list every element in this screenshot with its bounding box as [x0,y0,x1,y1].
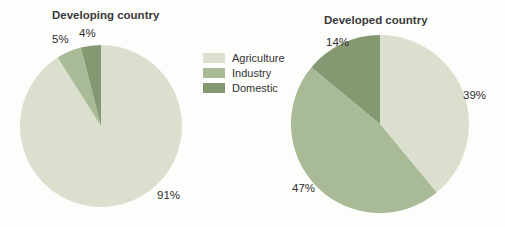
legend-item-domestic: Domestic [203,80,285,95]
pie-chart-developed-country [291,35,469,213]
slice-label-developing-industry: 5% [52,33,69,45]
legend-swatch-agriculture-icon [203,53,225,63]
chart-title-developing-country: Developing country [52,9,159,21]
legend-item-industry: Industry [203,65,285,80]
slice-label-developing-agriculture: 91% [157,189,180,201]
pie-charts-figure: Developing country Developed country 91%… [0,0,505,227]
slice-label-developed-industry: 47% [292,182,315,194]
chart-title-developed-country: Developed country [324,14,428,26]
legend-label-industry: Industry [232,67,271,79]
pie-slice-agriculture [20,45,182,207]
legend-item-agriculture: Agriculture [203,50,285,65]
slice-label-developed-agriculture: 39% [463,89,486,101]
slice-label-developed-domestic: 14% [326,36,349,48]
legend-swatch-domestic-icon [203,83,225,93]
slice-label-developing-domestic: 4% [79,27,96,39]
legend-label-domestic: Domestic [232,82,278,94]
legend-swatch-industry-icon [203,68,225,78]
pie-chart-developing-country [20,45,182,207]
legend: Agriculture Industry Domestic [203,50,285,95]
legend-label-agriculture: Agriculture [232,52,285,64]
